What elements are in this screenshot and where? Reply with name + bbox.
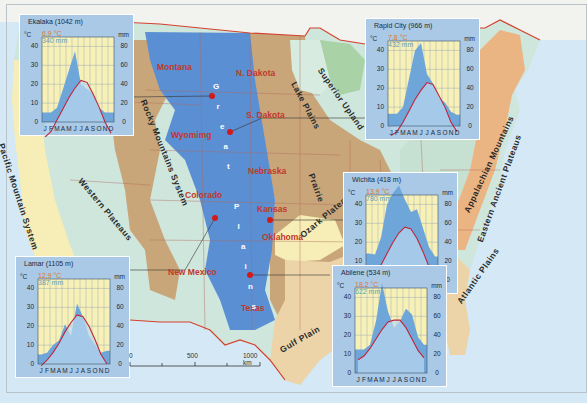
svg-text:J: J [69, 367, 72, 374]
temp-unit: °C [348, 189, 355, 196]
svg-text:A: A [57, 367, 62, 374]
climate-chart-abilene: 010203040020406080JFMAMJJASONDAbilene (5… [332, 265, 447, 387]
svg-text:O: O [92, 367, 97, 374]
svg-text:20: 20 [444, 257, 452, 264]
great-plains-letter: n [248, 282, 253, 291]
svg-text:20: 20 [120, 99, 128, 106]
svg-text:30: 30 [377, 65, 385, 72]
scale-tick-500: 500 [187, 352, 198, 359]
svg-text:D: D [105, 367, 110, 374]
svg-text:0: 0 [435, 369, 439, 376]
temp-unit: °C [20, 273, 27, 280]
state-label: N. Dakota [236, 68, 275, 78]
svg-text:A: A [374, 376, 379, 383]
svg-text:J: J [43, 125, 46, 132]
svg-text:40: 40 [466, 84, 474, 91]
state-label: S. Dakota [246, 110, 285, 120]
svg-text:80: 80 [444, 200, 452, 207]
svg-text:S: S [404, 376, 409, 383]
precip-unit: mm [464, 35, 475, 42]
svg-text:O: O [409, 376, 414, 383]
svg-text:A: A [407, 129, 412, 136]
svg-text:O: O [96, 125, 101, 132]
svg-text:M: M [367, 376, 372, 383]
svg-text:J: J [392, 376, 395, 383]
scale-tick-0: 0 [129, 352, 133, 359]
state-label: Kansas [257, 204, 287, 214]
svg-text:0: 0 [347, 369, 351, 376]
svg-text:N: N [416, 376, 421, 383]
scale-bar: 0 500 1000 km [125, 352, 265, 376]
great-plains-letter: a [241, 242, 245, 251]
svg-text:J: J [425, 129, 428, 136]
chart-title: Ekalaka (1042 m) [28, 18, 83, 25]
svg-text:20: 20 [116, 341, 124, 348]
chart-title: Abilene (534 m) [341, 269, 390, 276]
svg-text:N: N [103, 125, 108, 132]
svg-text:10: 10 [31, 99, 39, 106]
svg-text:M: M [412, 129, 417, 136]
mean-temperature: 13,9 °C [366, 188, 389, 195]
svg-text:J: J [356, 376, 359, 383]
mean-temperature: 6,9 °C [42, 30, 62, 37]
svg-text:F: F [395, 129, 399, 136]
svg-text:10: 10 [355, 257, 363, 264]
state-label: Nebraska [248, 166, 286, 176]
svg-text:40: 40 [27, 284, 35, 291]
great-plains-letter: a [224, 142, 228, 151]
svg-text:F: F [49, 125, 53, 132]
svg-text:30: 30 [344, 312, 352, 319]
climate-chart-ekalaka: 010203040020406080JFMAMJJASONDEkalaka (1… [19, 14, 134, 136]
svg-text:J: J [73, 125, 76, 132]
svg-text:0: 0 [30, 360, 34, 367]
temp-unit: °C [337, 282, 344, 289]
svg-text:40: 40 [120, 80, 128, 87]
mean-temperature: 7,8 °C [388, 34, 408, 41]
svg-text:80: 80 [466, 46, 474, 53]
climate-chart-rapid-city: 010203040020406080JFMAMJJASONDRapid City… [365, 18, 480, 140]
svg-text:40: 40 [444, 238, 452, 245]
chart-title: Lamar (1105 m) [24, 260, 73, 267]
svg-text:20: 20 [31, 80, 39, 87]
temp-unit: °C [24, 31, 31, 38]
scale-tick-1000: 1000 km [243, 352, 265, 366]
precip-unit: mm [114, 273, 125, 280]
svg-text:N: N [449, 129, 454, 136]
svg-text:0: 0 [118, 360, 122, 367]
svg-text:80: 80 [120, 42, 128, 49]
great-plains-letter: P [234, 202, 239, 211]
svg-text:J: J [79, 125, 82, 132]
svg-text:20: 20 [355, 238, 363, 245]
svg-text:A: A [398, 376, 403, 383]
svg-text:A: A [81, 367, 86, 374]
svg-text:F: F [45, 367, 49, 374]
chart-title: Rapid City (966 m) [374, 22, 432, 29]
svg-text:J: J [389, 129, 392, 136]
precip-unit: mm [118, 31, 129, 38]
svg-text:N: N [99, 367, 104, 374]
svg-text:S: S [91, 125, 96, 132]
svg-text:40: 40 [433, 331, 441, 338]
svg-text:0: 0 [380, 122, 384, 129]
svg-text:80: 80 [433, 293, 441, 300]
svg-text:S: S [87, 367, 92, 374]
annual-precipitation: 780 mm [366, 195, 391, 202]
svg-text:D: D [422, 376, 427, 383]
svg-text:20: 20 [377, 84, 385, 91]
svg-text:10: 10 [377, 103, 385, 110]
svg-text:M: M [400, 129, 405, 136]
climate-chart-lamar: 010203040020406080JFMAMJJASONDLamar (110… [15, 256, 130, 378]
svg-text:10: 10 [344, 350, 352, 357]
svg-text:M: M [66, 125, 71, 132]
svg-text:F: F [362, 376, 366, 383]
svg-text:20: 20 [27, 322, 35, 329]
svg-text:J: J [419, 129, 422, 136]
svg-text:A: A [61, 125, 66, 132]
svg-text:0: 0 [468, 122, 472, 129]
svg-text:40: 40 [31, 42, 39, 49]
svg-text:60: 60 [120, 61, 128, 68]
svg-text:60: 60 [116, 303, 124, 310]
svg-text:J: J [75, 367, 78, 374]
svg-text:60: 60 [433, 312, 441, 319]
state-label: Colorado [185, 190, 222, 200]
